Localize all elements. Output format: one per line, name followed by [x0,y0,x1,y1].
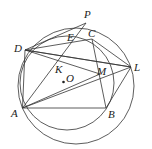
label-o: O [66,72,74,84]
segment-dm [25,50,100,74]
segment-cl [92,39,131,67]
label-c: C [88,27,96,39]
segment-bl [106,67,131,108]
segment-dp [25,23,86,50]
label-k: K [54,63,63,75]
geometry-diagram: P E C D K O M L A B [0,0,152,149]
label-l: L [133,61,140,73]
segment-da [23,50,26,108]
label-a: A [10,107,18,119]
label-e: E [66,31,74,43]
label-m: M [96,65,107,77]
segment-am [23,74,101,108]
label-b: B [108,108,115,120]
center-point-o [62,81,65,84]
segment-el [25,50,131,67]
label-d: D [13,42,22,54]
segment-al [23,67,132,108]
label-p: P [83,8,91,20]
